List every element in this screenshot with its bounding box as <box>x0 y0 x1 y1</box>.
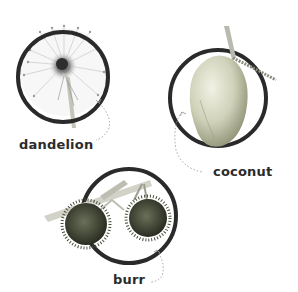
coconut-group <box>170 26 276 172</box>
dandelion-pointer-arrow <box>96 103 110 140</box>
burr-label: burr <box>113 272 145 287</box>
burr-group <box>44 169 176 282</box>
seed-dispersal-figure: dandelion coconut burr <box>0 0 298 292</box>
dandelion-label: dandelion <box>19 137 93 152</box>
burr-icon <box>44 180 170 248</box>
coconut-label: coconut <box>213 164 272 179</box>
dandelion-group <box>18 25 110 140</box>
